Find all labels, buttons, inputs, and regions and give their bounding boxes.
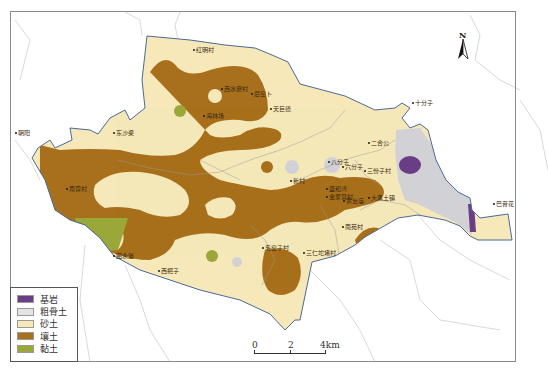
place-label: 天巨德 xyxy=(270,106,291,112)
place-label: 后窑卜 xyxy=(251,91,272,97)
place-dot-icon xyxy=(303,252,305,254)
place-name: 二合公 xyxy=(371,139,389,146)
place-name: 盛和湾 xyxy=(329,185,347,192)
place-label: 大黑土镇 xyxy=(368,195,395,201)
place-name: 朝阳 xyxy=(18,129,30,136)
place-dot-icon xyxy=(113,132,115,134)
place-dot-icon xyxy=(270,108,272,110)
scale-label-2: 2 xyxy=(288,340,294,350)
place-dot-icon xyxy=(66,188,68,190)
legend-label: 黏土 xyxy=(40,342,58,355)
place-dot-icon xyxy=(342,166,344,168)
place-dot-icon xyxy=(343,200,345,202)
place-label: 图永堡 xyxy=(113,253,134,259)
legend-swatch xyxy=(17,295,34,303)
legend-swatch xyxy=(17,332,34,340)
legend-swatch xyxy=(17,320,34,328)
place-dot-icon xyxy=(368,197,370,199)
place-label: 黄台庙 xyxy=(343,198,364,204)
place-name: 南苑村 xyxy=(345,223,363,230)
place-dot-icon xyxy=(251,93,253,95)
north-arrow-icon xyxy=(457,39,469,59)
place-label: 朝阳 xyxy=(15,130,30,136)
legend-label: 粗骨土 xyxy=(40,305,67,318)
place-name: 海林场 xyxy=(206,112,224,119)
legend-swatch xyxy=(17,345,34,353)
place-dot-icon xyxy=(364,170,366,172)
scale-bar: 0 2 4km xyxy=(250,340,330,356)
scale-tick xyxy=(290,350,291,354)
north-arrow: N xyxy=(456,30,470,60)
scale-tick xyxy=(254,350,255,354)
scale-label-0: 0 xyxy=(252,340,258,350)
legend-item-skeletal-soil: 粗骨土 xyxy=(17,305,77,317)
legend-item-bedrock: 基岩 xyxy=(17,293,77,305)
place-name: 大黑土镇 xyxy=(371,194,395,201)
legend-label: 基岩 xyxy=(40,293,58,306)
place-dot-icon xyxy=(158,270,160,272)
place-name: 红明村 xyxy=(196,46,214,53)
place-dot-icon xyxy=(113,255,115,257)
place-name: 南营村 xyxy=(69,185,87,192)
place-name: 黄台庙 xyxy=(346,197,364,204)
place-label: 新村 xyxy=(290,178,305,184)
place-dot-icon xyxy=(412,102,414,104)
place-name: 十分子 xyxy=(415,99,433,106)
place-name: 三仁坨堵村 xyxy=(306,249,336,256)
place-label: 十分子 xyxy=(412,100,433,106)
place-label: 南营村 xyxy=(66,186,87,192)
legend-item-clay: 黏土 xyxy=(17,343,77,355)
place-name: 西把子 xyxy=(161,267,179,274)
legend-item-sandy-soil: 砂土 xyxy=(17,318,77,330)
place-dot-icon xyxy=(203,115,205,117)
place-label: 东沙梁 xyxy=(113,130,134,136)
scale-tick xyxy=(325,350,326,354)
place-label: 南苑村 xyxy=(342,224,363,230)
place-dot-icon xyxy=(326,196,328,198)
place-name: 巴音花 xyxy=(496,200,514,207)
place-name: 三份子村 xyxy=(367,167,391,174)
legend-label: 壤土 xyxy=(40,330,58,343)
place-name: 六分子 xyxy=(345,163,363,170)
place-dot-icon xyxy=(15,132,17,134)
place-name: 天巨德 xyxy=(273,105,291,112)
place-label: 巴音花 xyxy=(493,201,514,207)
place-label: 二合公 xyxy=(368,140,389,146)
place-label: 红明村 xyxy=(193,47,214,53)
legend: 基岩 粗骨土 砂土 壤土 黏土 xyxy=(10,287,78,362)
place-label: 海林场 xyxy=(203,113,224,119)
place-label: 三份子村 xyxy=(364,168,391,174)
place-label: 六分子 xyxy=(342,164,363,170)
place-dot-icon xyxy=(326,188,328,190)
place-dot-icon xyxy=(328,161,330,163)
place-name: 图永堡 xyxy=(116,252,134,259)
place-label: 盛和湾 xyxy=(326,186,347,192)
place-label: 三仁坨堵村 xyxy=(303,250,336,256)
legend-item-loam: 壤土 xyxy=(17,330,77,342)
place-label: 毛窑子村 xyxy=(262,245,289,251)
legend-label: 砂土 xyxy=(40,317,58,330)
place-name: 西水磨村 xyxy=(224,85,248,92)
place-dot-icon xyxy=(262,247,264,249)
scale-label-4km: 4km xyxy=(320,340,340,350)
place-name: 东沙梁 xyxy=(116,129,134,136)
place-dot-icon xyxy=(368,142,370,144)
legend-swatch xyxy=(17,308,34,316)
place-dot-icon xyxy=(493,203,495,205)
place-name: 后窑卜 xyxy=(254,90,272,97)
place-label: 西水磨村 xyxy=(221,86,248,92)
place-label: 西把子 xyxy=(158,268,179,274)
place-name: 新村 xyxy=(293,177,305,184)
place-name: 毛窑子村 xyxy=(265,244,289,251)
place-dot-icon xyxy=(193,49,195,51)
place-dot-icon xyxy=(290,180,292,182)
place-dot-icon xyxy=(221,88,223,90)
place-dot-icon xyxy=(342,226,344,228)
